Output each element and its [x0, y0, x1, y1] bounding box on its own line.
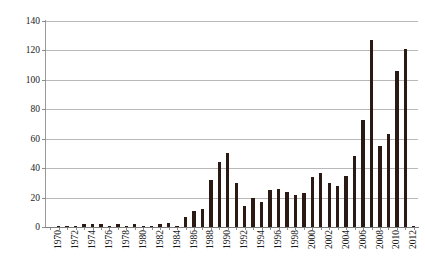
- x-tick-label: 1976: [105, 230, 115, 249]
- x-tick-label: 1992: [240, 230, 250, 249]
- x-tick-mark: [380, 228, 381, 230]
- y-tick-label: 0: [10, 223, 40, 233]
- x-tick-mark: [304, 228, 305, 230]
- x-tick-mark: [363, 228, 364, 230]
- x-tick-mark: [295, 228, 296, 230]
- bar: [184, 217, 187, 227]
- bar: [150, 226, 153, 227]
- x-tick-mark: [414, 228, 415, 230]
- x-tick-label: 1996: [274, 230, 284, 249]
- bar: [260, 202, 263, 227]
- x-tick-mark: [219, 228, 220, 230]
- bar: [125, 226, 128, 227]
- y-tick-label: 100: [10, 76, 40, 86]
- x-tick-label: 1994: [257, 230, 267, 249]
- x-tick-mark: [177, 228, 178, 230]
- bar: [285, 192, 288, 227]
- x-tick-label: 1980: [139, 230, 149, 249]
- x-tick-mark: [169, 228, 170, 230]
- y-tick-label: 80: [10, 105, 40, 115]
- x-tick-mark: [93, 228, 94, 230]
- bar-chart-figure: 020406080100120140 197019721974197619781…: [0, 0, 425, 272]
- bar: [167, 223, 170, 227]
- bar: [277, 189, 280, 227]
- x-tick-label: 1998: [291, 230, 301, 249]
- x-tick-mark: [76, 228, 77, 230]
- y-tick-label: 60: [10, 135, 40, 145]
- bar: [387, 134, 390, 227]
- bar: [395, 71, 398, 227]
- x-tick-mark: [194, 228, 195, 230]
- x-tick-mark: [202, 228, 203, 230]
- bar: [192, 211, 195, 227]
- x-tick-mark: [228, 228, 229, 230]
- x-tick-mark: [67, 228, 68, 230]
- x-tick-mark: [338, 228, 339, 230]
- x-tick-mark: [405, 228, 406, 230]
- x-tick-mark: [186, 228, 187, 230]
- bar: [336, 186, 339, 227]
- bar: [108, 226, 111, 227]
- bar: [268, 190, 271, 227]
- x-tick-mark: [355, 228, 356, 230]
- bar: [328, 183, 331, 227]
- x-tick-mark: [329, 228, 330, 230]
- bar: [133, 224, 136, 227]
- bar: [412, 226, 415, 227]
- bar: [404, 49, 407, 227]
- x-tick-mark: [279, 228, 280, 230]
- x-tick-mark: [397, 228, 398, 230]
- x-tick-mark: [126, 228, 127, 230]
- bar: [201, 209, 204, 227]
- bar: [158, 224, 161, 227]
- x-tick-label: 1974: [88, 230, 98, 249]
- bar: [218, 162, 221, 227]
- bar: [243, 206, 246, 227]
- bar: [294, 195, 297, 227]
- x-tick-label: 1988: [206, 230, 216, 249]
- x-tick-mark: [160, 228, 161, 230]
- x-tick-label: 2006: [359, 230, 369, 249]
- x-tick-mark: [118, 228, 119, 230]
- bars-layer: [46, 21, 418, 227]
- y-tick-label: 20: [10, 194, 40, 204]
- bar: [302, 193, 305, 227]
- x-tick-label: 1984: [173, 230, 183, 249]
- x-tick-mark: [346, 228, 347, 230]
- x-tick-mark: [312, 228, 313, 230]
- x-tick-mark: [84, 228, 85, 230]
- bar: [142, 226, 145, 227]
- bar: [175, 226, 178, 227]
- x-tick-mark: [50, 228, 51, 230]
- x-tick-mark: [135, 228, 136, 230]
- y-tick-label: 140: [10, 17, 40, 27]
- bar: [361, 120, 364, 227]
- x-tick-mark: [388, 228, 389, 230]
- x-tick-mark: [143, 228, 144, 230]
- x-tick-label: 2004: [342, 230, 352, 249]
- x-tick-mark: [109, 228, 110, 230]
- x-tick-mark: [59, 228, 60, 230]
- y-axis-labels: 020406080100120140: [6, 0, 40, 272]
- bar: [353, 156, 356, 227]
- x-tick-mark: [287, 228, 288, 230]
- bar: [344, 176, 347, 228]
- x-tick-label: 2002: [325, 230, 335, 249]
- x-tick-mark: [245, 228, 246, 230]
- x-tick-mark: [253, 228, 254, 230]
- x-tick-mark: [321, 228, 322, 230]
- bar: [378, 146, 381, 227]
- x-tick-label: 2010: [392, 230, 402, 249]
- bar: [99, 224, 102, 227]
- x-axis-labels: 1970197219741976197819801982198419861988…: [46, 228, 418, 272]
- x-tick-label: 1978: [122, 230, 132, 249]
- bar: [226, 153, 229, 227]
- x-tick-label: 1972: [71, 230, 81, 249]
- bar: [65, 226, 68, 227]
- x-tick-label: 2000: [308, 230, 318, 249]
- bar: [235, 183, 238, 227]
- bar: [370, 40, 373, 227]
- x-tick-label: 1970: [54, 230, 64, 249]
- x-tick-label: 1982: [156, 230, 166, 249]
- x-tick-mark: [211, 228, 212, 230]
